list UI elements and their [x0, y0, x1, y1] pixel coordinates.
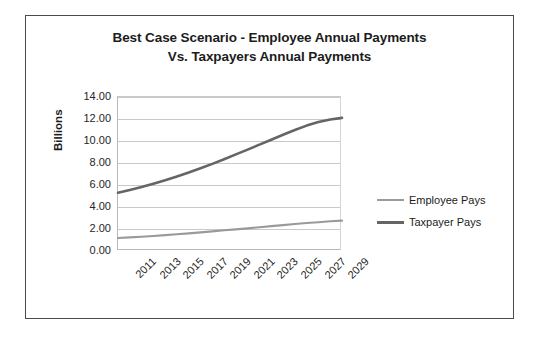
legend-label: Taxpayer Pays [409, 216, 481, 228]
plot-area [117, 96, 341, 250]
x-axis-tick-label: 2025 [298, 255, 324, 281]
series-line [118, 118, 342, 193]
x-axis-tick-label: 2021 [251, 255, 277, 281]
legend-item[interactable]: Taxpayer Pays [377, 211, 485, 233]
legend-color-swatch [377, 221, 404, 224]
chart-legend: Employee PaysTaxpayer Pays [377, 189, 485, 233]
y-axis-tick-label: 6.00 [65, 178, 111, 190]
y-axis-tick-label: 10.00 [65, 134, 111, 146]
y-axis-tick-label: 8.00 [65, 156, 111, 168]
chart-title-line-2: Vs. Taxpayers Annual Payments [26, 47, 513, 66]
legend-label: Employee Pays [409, 194, 485, 206]
x-axis-tick-label: 2019 [227, 255, 253, 281]
chart-title-line-1: Best Case Scenario - Employee Annual Pay… [26, 28, 513, 47]
y-axis-tick-label: 14.00 [65, 90, 111, 102]
x-axis-tick-label: 2029 [345, 255, 371, 281]
y-axis-tick-label: 12.00 [65, 112, 111, 124]
x-axis-tick-label: 2023 [275, 255, 301, 281]
legend-color-swatch [377, 199, 404, 201]
series-line [118, 221, 342, 238]
y-axis-title: Billions [52, 137, 64, 151]
x-axis-tick-label: 2017 [204, 255, 230, 281]
legend-item[interactable]: Employee Pays [377, 189, 485, 211]
x-axis-tick-label: 2015 [180, 255, 206, 281]
x-axis-tick-label: 2013 [157, 255, 183, 281]
y-axis-tick-label: 4.00 [65, 200, 111, 212]
y-axis-tick-label: 2.00 [65, 222, 111, 234]
series-lines [118, 97, 342, 251]
chart-title: Best Case Scenario - Employee Annual Pay… [26, 28, 513, 66]
chart-figure-frame: Best Case Scenario - Employee Annual Pay… [25, 15, 514, 319]
x-axis-tick-label: 2011 [133, 255, 158, 280]
x-axis-tick-label: 2027 [322, 255, 348, 281]
y-axis-tick-label: 0.00 [65, 244, 111, 256]
